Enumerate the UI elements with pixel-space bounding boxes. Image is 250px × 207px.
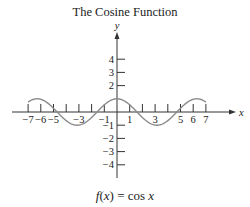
x-axis-arrow-icon (229, 110, 236, 115)
x-tick-label: 3 (152, 114, 157, 125)
x-tick-label: 6 (191, 114, 196, 125)
x-axis-label: x (238, 107, 244, 118)
caption-eq: = cos (114, 188, 148, 203)
function-caption: f(x) = cos x (0, 188, 250, 204)
x-tick-label: 1 (127, 114, 132, 125)
y-tick-label: 3 (109, 67, 114, 78)
y-axis-label: y (114, 20, 120, 31)
caption-var: x (148, 188, 154, 203)
x-tick-label: −7 (23, 114, 34, 125)
cosine-plot: xy−7−6−5−3−113567432−1−2−3−4 (0, 0, 250, 207)
y-tick-label: −4 (103, 159, 115, 170)
caption-arg: (x) (99, 188, 113, 203)
y-tick-label: 4 (109, 54, 115, 65)
y-tick-label: −2 (103, 133, 114, 144)
y-tick-label: 2 (109, 80, 114, 91)
x-tick-label: 7 (203, 114, 208, 125)
x-tick-label: 5 (178, 114, 183, 125)
x-tick-label: −5 (48, 114, 59, 125)
x-tick-label: −6 (35, 114, 46, 125)
y-tick-label: −1 (103, 120, 114, 131)
y-tick-label: −3 (103, 146, 114, 157)
y-axis-arrow-icon (115, 32, 120, 39)
